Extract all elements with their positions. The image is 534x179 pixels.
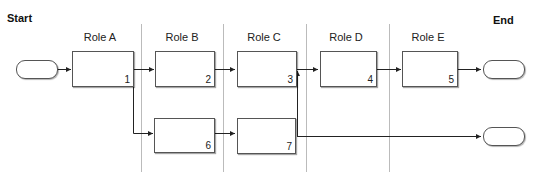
node-number: 1 <box>124 74 130 85</box>
node-number: 7 <box>286 141 292 152</box>
start-label: Start <box>7 12 32 24</box>
process-box-6[interactable]: 6 <box>154 118 215 153</box>
process-box-2[interactable]: 2 <box>155 51 215 87</box>
node-number: 6 <box>205 140 211 151</box>
node-number: 5 <box>448 74 454 85</box>
end-terminal-bottom[interactable] <box>483 127 525 146</box>
lane-title-role-b: Role B <box>142 31 222 43</box>
process-box-4[interactable]: 4 <box>320 51 377 87</box>
process-box-5[interactable]: 5 <box>402 51 458 87</box>
lane-title-role-c: Role C <box>224 31 304 43</box>
process-box-7[interactable]: 7 <box>237 118 296 154</box>
process-box-3[interactable]: 3 <box>237 51 297 87</box>
lane-title-role-d: Role D <box>306 31 386 43</box>
start-terminal[interactable] <box>16 60 58 79</box>
node-number: 3 <box>287 74 293 85</box>
process-box-1[interactable]: 1 <box>72 51 134 87</box>
node-number: 2 <box>205 74 211 85</box>
lane-title-role-e: Role E <box>388 31 468 43</box>
node-number: 4 <box>367 74 373 85</box>
end-terminal-top[interactable] <box>483 60 525 79</box>
lane-title-role-a: Role A <box>60 31 140 43</box>
end-label: End <box>493 14 514 26</box>
